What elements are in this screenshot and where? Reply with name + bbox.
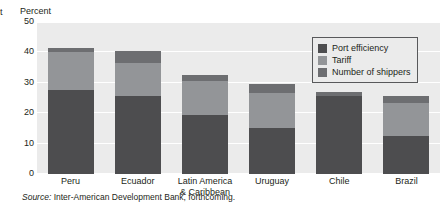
legend-label: Port efficiency [332, 43, 388, 53]
source-label: Source: [22, 192, 51, 202]
y-axis-tick-label: 40 [4, 47, 34, 56]
bar-segment[interactable] [48, 90, 94, 174]
stacked-bar[interactable] [182, 75, 228, 174]
y-axis-tick-label: 30 [4, 78, 34, 87]
figure: t Percent 01020304050 PeruEcuadorLatin A… [0, 0, 443, 220]
y-axis-tick-label: 10 [4, 139, 34, 148]
legend-item: Port efficiency [318, 42, 411, 54]
bar-segment[interactable] [182, 81, 228, 114]
cropped-edge-text: t [0, 7, 3, 17]
legend-swatch-port-efficiency [318, 44, 327, 53]
stacked-bar[interactable] [249, 84, 295, 174]
bar-segment[interactable] [249, 128, 295, 174]
bar-segment[interactable] [182, 75, 228, 81]
bar-segment[interactable] [249, 84, 295, 93]
x-axis-tick-label: Brazil [360, 176, 443, 187]
bar-segment[interactable] [316, 96, 362, 174]
bar-segment[interactable] [115, 51, 161, 63]
bar-segment[interactable] [115, 63, 161, 96]
bar-segment[interactable] [48, 48, 94, 53]
bar-segment[interactable] [48, 52, 94, 90]
legend-item: Number of shippers [318, 66, 411, 78]
bar-segment[interactable] [383, 103, 429, 136]
bar-segment[interactable] [316, 92, 362, 97]
x-axis-label-line: Brazil [360, 176, 443, 187]
bar-segment[interactable] [383, 96, 429, 102]
stacked-bar[interactable] [115, 51, 161, 174]
bar-group[interactable] [48, 22, 94, 174]
stacked-bar[interactable] [316, 92, 362, 174]
y-axis-ticks: 01020304050 [0, 22, 34, 174]
legend: Port efficiency Tariff Number of shipper… [312, 37, 418, 83]
source-note: Source: Inter-American Development Bank,… [22, 192, 235, 203]
bar-segment[interactable] [182, 115, 228, 174]
bar-segment[interactable] [249, 93, 295, 128]
bar-group[interactable] [182, 22, 228, 174]
y-axis-tick-label: 50 [4, 17, 34, 26]
stacked-bar[interactable] [48, 48, 94, 174]
bar-segment[interactable] [115, 96, 161, 174]
legend-label: Number of shippers [332, 67, 411, 77]
legend-swatch-tariff [318, 56, 327, 65]
bar-group[interactable] [115, 22, 161, 174]
bar-segment[interactable] [383, 136, 429, 174]
source-text: Inter-American Development Bank, forthco… [54, 192, 235, 202]
legend-swatch-number-of-shippers [318, 68, 327, 77]
stacked-bar[interactable] [383, 96, 429, 174]
bar-group[interactable] [249, 22, 295, 174]
legend-item: Tariff [318, 54, 411, 66]
y-axis-tick-label: 20 [4, 108, 34, 117]
legend-label: Tariff [332, 55, 351, 65]
